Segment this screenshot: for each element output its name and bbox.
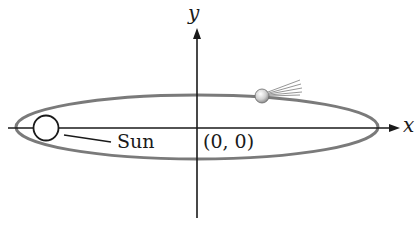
y-axis: [193, 28, 201, 218]
origin-label: (0, 0): [203, 130, 254, 152]
sun-leader-line: [64, 135, 111, 142]
sun-label: Sun: [117, 130, 155, 152]
orbit-diagram: [0, 0, 415, 231]
y-axis-label: y: [188, 1, 199, 25]
y-axis-arrow-icon: [193, 28, 201, 39]
comet-tail-icon: [268, 80, 302, 96]
sun-circle-icon: [34, 116, 59, 141]
x-axis-label: x: [403, 113, 414, 137]
x-axis-arrow-icon: [389, 124, 400, 132]
comet-head-icon: [255, 89, 269, 103]
